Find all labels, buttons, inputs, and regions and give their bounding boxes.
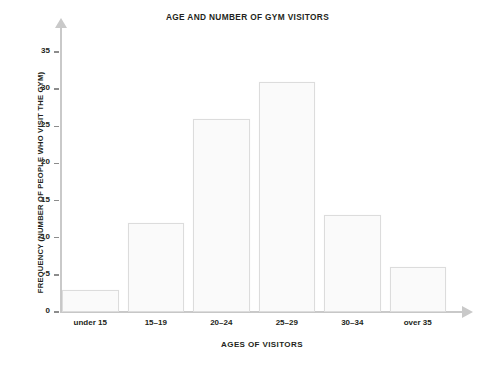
y-axis-line — [60, 26, 62, 313]
y-axis-title: FREQUENCY (NUMBER OF PEOPLE WHO VISIT TH… — [36, 58, 45, 308]
gym-visitors-histogram: AGE AND NUMBER OF GYM VISITORS 051015202… — [0, 0, 495, 366]
bar — [62, 290, 119, 312]
bar — [259, 82, 316, 312]
bar — [324, 215, 381, 312]
y-axis-tick — [54, 200, 59, 201]
y-axis-tick — [54, 126, 59, 127]
y-axis-tick — [54, 88, 59, 89]
bar — [128, 223, 185, 312]
x-axis-category-label: 30–34 — [324, 318, 381, 327]
x-axis-category-label: 20–24 — [193, 318, 250, 327]
y-axis-tick-label: 35 — [28, 47, 50, 57]
y-axis-tick-label: 0 — [28, 307, 50, 317]
y-axis-arrow-icon — [55, 18, 67, 28]
bar — [193, 119, 250, 312]
y-axis-tick-label-text: 35 — [28, 47, 50, 55]
x-axis-title: AGES OF VISITORS — [60, 340, 464, 349]
x-axis-arrow-icon — [462, 306, 473, 318]
x-axis-category-label: under 15 — [62, 318, 119, 327]
plot-area: 05101520253035 under 1515–1920–2425–2930… — [0, 0, 495, 366]
y-axis-tick — [54, 237, 59, 238]
y-axis-tick-label-text: 0 — [28, 307, 50, 315]
y-axis-tick — [54, 274, 59, 275]
y-axis-tick — [54, 311, 59, 312]
x-axis-category-label: over 35 — [390, 318, 447, 327]
x-axis-category-label: 25–29 — [259, 318, 316, 327]
y-axis-tick — [54, 163, 59, 164]
x-axis-category-label: 15–19 — [128, 318, 185, 327]
y-axis-tick — [54, 51, 59, 52]
bar — [390, 267, 447, 312]
